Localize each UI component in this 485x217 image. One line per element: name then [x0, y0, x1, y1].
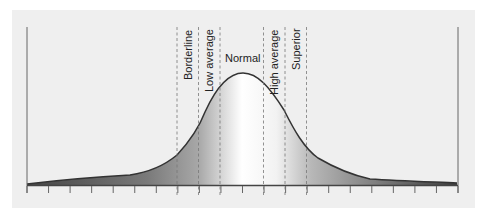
distribution-area: [27, 73, 457, 185]
label-borderline: Borderline: [182, 30, 194, 80]
tick-marks: [27, 186, 458, 193]
bell-curve-diagram: Borderline Low average Normal High avera…: [0, 0, 485, 217]
label-high-average: High average: [268, 30, 280, 95]
label-superior: Superior: [290, 28, 302, 70]
label-normal: Normal: [225, 52, 260, 64]
label-low-average: Low average: [203, 29, 215, 92]
